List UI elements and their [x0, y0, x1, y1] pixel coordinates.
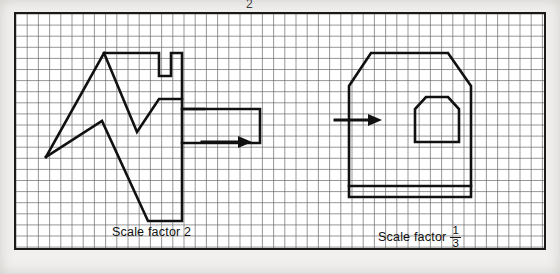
top-margin-mark: 2 — [246, 0, 253, 11]
left-arrow-tail — [46, 121, 182, 221]
left-arrow-head-outline — [182, 109, 260, 143]
label-right-scale-factor: Scale factor13 — [378, 225, 461, 249]
left-arrow-marker — [202, 136, 252, 148]
grid-frame: Scale factor 2 Scale factor13 — [14, 12, 546, 250]
fraction-numerator: 1 — [450, 225, 461, 238]
label-left-text: Scale factor 2 — [112, 225, 191, 239]
right-arch-marker — [335, 114, 382, 126]
label-left-scale-factor: Scale factor 2 — [112, 225, 191, 239]
label-right-text: Scale factor — [378, 230, 446, 244]
right-arch-shape — [349, 53, 471, 197]
worksheet-page: Scale factor 2 Scale factor13 2 — [0, 0, 560, 274]
right-arch-inner-hole — [415, 97, 459, 142]
fraction-one-third: 13 — [450, 225, 461, 249]
figures-layer — [16, 14, 544, 248]
fraction-denominator: 3 — [450, 238, 461, 250]
